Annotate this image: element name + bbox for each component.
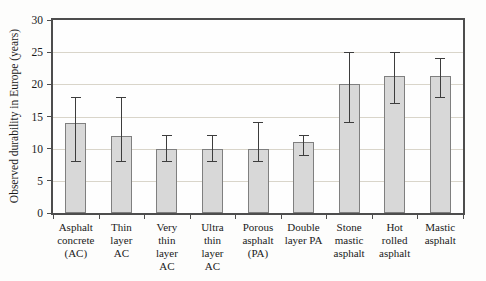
errorbar-cap-top-5 — [299, 135, 309, 136]
errorbar-cap-bottom-8 — [435, 97, 445, 98]
errorbar-line-3 — [212, 136, 213, 162]
y-tick-label-25: 25 — [13, 45, 43, 59]
y-tick-label-30: 30 — [13, 13, 43, 27]
errorbar-cap-top-4 — [253, 122, 263, 123]
y-tick-label-5: 5 — [13, 174, 43, 188]
errorbar-line-6 — [349, 52, 350, 123]
errorbar-cap-bottom-4 — [253, 161, 263, 162]
y-axis: 051015202530 — [0, 20, 51, 213]
y-tick-label-15: 15 — [13, 110, 43, 124]
errorbar-cap-top-6 — [344, 52, 354, 53]
errorbar-cap-top-1 — [116, 97, 126, 98]
errorbar-cap-top-2 — [162, 135, 172, 136]
x-tick-mark-4 — [235, 215, 236, 219]
x-tick-mark-6 — [326, 215, 327, 219]
x-tick-mark-8 — [417, 215, 418, 219]
errorbar-cap-bottom-5 — [299, 155, 309, 156]
errorbar-cap-bottom-2 — [162, 161, 172, 162]
x-tick-mark-9 — [463, 215, 464, 219]
y-tick-label-10: 10 — [13, 142, 43, 156]
errorbar-cap-top-3 — [207, 135, 217, 136]
x-tick-mark-7 — [372, 215, 373, 219]
x-axis-labels: Asphalt concrete (AC)Thin layer ACVery t… — [53, 221, 463, 277]
x-tick-mark-2 — [144, 215, 145, 219]
errorbar-line-4 — [258, 123, 259, 162]
gridline-25 — [53, 52, 463, 53]
errorbar-cap-top-8 — [435, 58, 445, 59]
errorbar-line-7 — [394, 52, 395, 103]
errorbar-line-8 — [440, 59, 441, 98]
x-category-label-8: Mastic asphalt — [408, 221, 472, 247]
x-axis-ticks — [53, 215, 463, 219]
plot-area — [51, 18, 465, 215]
errorbar-cap-top-7 — [390, 52, 400, 53]
x-tick-mark-3 — [190, 215, 191, 219]
y-tick-label-0: 0 — [13, 206, 43, 220]
y-tick-label-20: 20 — [13, 77, 43, 91]
errorbar-cap-bottom-7 — [390, 103, 400, 104]
plot-inner — [53, 20, 463, 213]
errorbar-line-2 — [166, 136, 167, 162]
x-tick-mark-0 — [53, 215, 54, 219]
errorbar-cap-bottom-6 — [344, 122, 354, 123]
x-tick-mark-1 — [99, 215, 100, 219]
errorbar-line-1 — [121, 97, 122, 161]
errorbar-cap-bottom-0 — [71, 161, 81, 162]
errorbar-line-5 — [303, 136, 304, 155]
errorbar-line-0 — [75, 97, 76, 161]
errorbar-cap-bottom-3 — [207, 161, 217, 162]
errorbar-cap-top-0 — [71, 97, 81, 98]
errorbar-cap-bottom-1 — [116, 161, 126, 162]
x-tick-mark-5 — [281, 215, 282, 219]
durability-bar-chart: Observed durability in Europe (years) 05… — [0, 0, 486, 281]
